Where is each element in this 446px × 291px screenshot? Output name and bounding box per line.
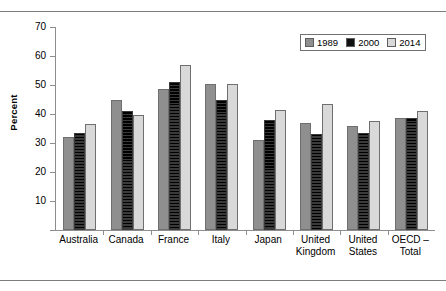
bar <box>253 140 264 230</box>
legend-label-2014: 2014 <box>399 37 420 48</box>
bar-groups <box>56 27 435 230</box>
bar <box>111 100 122 231</box>
y-axis-title: Percent <box>8 73 19 153</box>
bar <box>395 118 406 230</box>
x-axis-label: France <box>150 234 197 257</box>
legend-item-1989: 1989 <box>305 37 338 48</box>
bar-group <box>198 27 245 230</box>
bar <box>133 115 144 230</box>
y-axis-tick: 20 <box>50 172 56 173</box>
y-axis-tick: 60 <box>50 56 56 57</box>
y-axis-tick-label: 60 <box>35 49 46 62</box>
legend-swatch-icon-2014 <box>387 38 396 47</box>
bar <box>205 84 216 230</box>
legend-item-2000: 2000 <box>346 37 379 48</box>
y-axis-tick <box>50 230 56 231</box>
bar-chart-figure: Percent 10203040506070 AustraliaCanadaFr… <box>0 12 446 280</box>
bar-group <box>56 27 103 230</box>
y-axis-tick-label: 70 <box>35 20 46 33</box>
legend-swatch-icon-2000 <box>346 38 355 47</box>
y-axis-tick-label: 50 <box>35 78 46 91</box>
bar-group <box>246 27 293 230</box>
y-axis-tick: 10 <box>50 201 56 202</box>
bar <box>85 124 96 230</box>
plot-area: 10203040506070 <box>55 27 435 231</box>
bar <box>74 133 85 230</box>
bar <box>300 123 311 230</box>
y-axis-tick: 50 <box>50 85 56 86</box>
bar <box>169 82 180 230</box>
x-axis-label: Italy <box>197 234 244 257</box>
chart-legend: 1989 2000 2014 <box>300 34 426 51</box>
bar-group <box>340 27 387 230</box>
bottom-divider-rule <box>0 280 446 281</box>
y-axis-tick: 70 <box>50 27 56 28</box>
bar-group <box>388 27 435 230</box>
y-axis-tick-label: 40 <box>35 107 46 120</box>
bar <box>347 126 358 230</box>
bar-group <box>293 27 340 230</box>
x-axis-label: Canada <box>102 234 149 257</box>
bar-group <box>103 27 150 230</box>
legend-label-1989: 1989 <box>317 37 338 48</box>
y-axis-tick: 40 <box>50 114 56 115</box>
x-axis-label: Australia <box>55 234 102 257</box>
x-axis-label: UnitedKingdom <box>292 234 339 257</box>
bar <box>322 104 333 230</box>
x-axis-label: Japan <box>245 234 292 257</box>
y-axis-tick-label: 20 <box>35 165 46 178</box>
bar <box>227 84 238 230</box>
legend-label-2000: 2000 <box>358 37 379 48</box>
bar <box>216 100 227 231</box>
legend-item-2014: 2014 <box>387 37 420 48</box>
y-axis-tick-label: 10 <box>35 194 46 207</box>
bar <box>63 137 74 230</box>
bar <box>264 120 275 230</box>
bar <box>180 65 191 230</box>
bar <box>358 133 369 230</box>
y-axis-tick-label: 30 <box>35 136 46 149</box>
x-axis-label: UnitedStates <box>339 234 386 257</box>
y-axis-tick: 30 <box>50 143 56 144</box>
bar <box>122 111 133 230</box>
bar <box>369 121 380 230</box>
x-axis-labels: AustraliaCanadaFranceItalyJapanUnitedKin… <box>55 234 434 257</box>
x-axis-label: OECD –Total <box>387 234 434 257</box>
legend-swatch-icon-1989 <box>305 38 314 47</box>
bar <box>158 89 169 230</box>
bar <box>417 111 428 230</box>
bar <box>406 118 417 230</box>
bar <box>311 134 322 230</box>
bar <box>275 110 286 230</box>
bar-group <box>151 27 198 230</box>
